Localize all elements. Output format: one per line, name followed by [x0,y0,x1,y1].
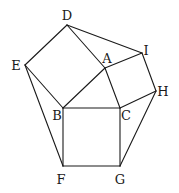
vertex-label-g: G [115,172,125,187]
vertex-label-e: E [11,58,21,73]
geometry-diagram: DIAEHBCFG [0,0,179,193]
edges-group [25,25,156,166]
edge-hg [120,91,156,166]
vertex-label-i: I [143,43,148,58]
edge-ab [63,68,105,108]
vertex-label-b: B [52,108,62,123]
edge-hc [120,91,156,108]
edge-ac [105,68,120,108]
edge-da [67,25,105,68]
edge-di [67,25,142,53]
vertex-label-c: C [121,108,131,123]
vertex-label-f: F [56,172,65,187]
labels-group: DIAEHBCFG [11,8,168,187]
edge-de [25,25,67,65]
edge-eb [25,65,63,108]
vertex-label-d: D [62,8,72,23]
edge-ih [142,53,156,91]
vertex-label-a: A [101,51,112,66]
vertex-label-h: H [157,84,168,99]
